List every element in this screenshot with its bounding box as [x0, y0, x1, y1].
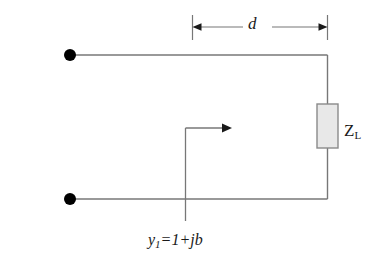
admittance-label: y1=1+jb [148, 231, 203, 250]
dimension-arrowhead-right-icon [319, 23, 328, 31]
load-impedance-subscript: L [354, 129, 361, 141]
terminal-dot-top [64, 49, 76, 61]
load-impedance-label: ZL [344, 121, 361, 141]
distance-label-d: d [248, 14, 257, 34]
transmission-line-diagram: d ZL y1=1+jb [0, 0, 375, 258]
circuit-schematic-canvas [0, 0, 375, 258]
pointer-arrowhead-icon [222, 123, 232, 132]
dimension-arrowhead-left-icon [193, 23, 202, 31]
dimension-group-d [193, 15, 328, 40]
conductor-group [70, 55, 328, 199]
admittance-expression: =1+jb [161, 231, 203, 248]
load-impedance-box [317, 104, 338, 148]
terminal-dot-bottom [64, 193, 76, 205]
admittance-reference-pointer [186, 123, 233, 221]
load-impedance-symbol: Z [344, 121, 354, 140]
